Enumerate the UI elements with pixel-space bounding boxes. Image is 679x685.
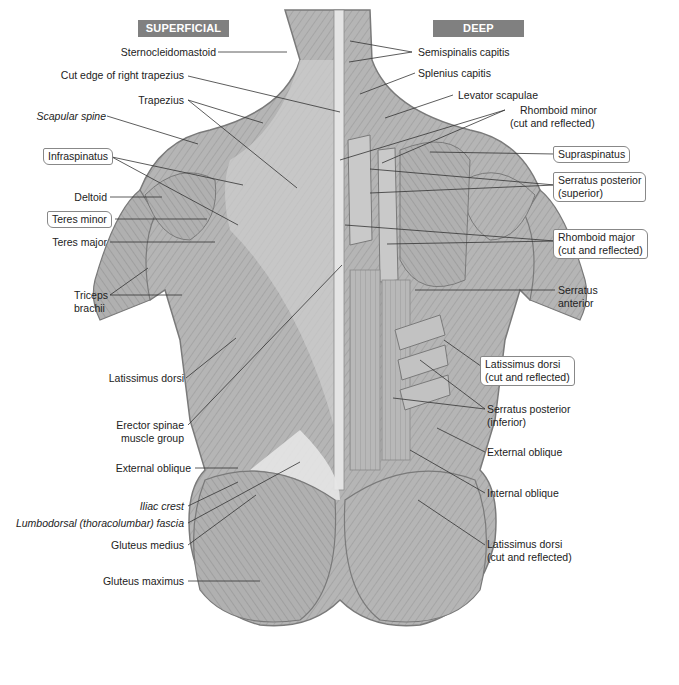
label-teres-minor: Teres minor	[47, 211, 112, 228]
label-serratus-posterior-inferior: Serratus posterior (inferior)	[487, 403, 570, 429]
label-line-2: anterior	[558, 297, 598, 310]
label-line-2: (cut and reflected)	[510, 117, 597, 130]
label-line-1: Rhomboid major	[558, 231, 643, 244]
label-sternocleidomastoid: Sternocleidomastoid	[121, 46, 216, 59]
label-levator-scapulae: Levator scapulae	[458, 89, 538, 102]
label-cut-edge-right-trapezius: Cut edge of right trapezius	[61, 69, 184, 82]
label-line-2: (cut and reflected)	[487, 551, 572, 564]
label-external-oblique-right: External oblique	[487, 446, 562, 459]
label-gluteus-maximus: Gluteus maximus	[103, 575, 184, 588]
label-line-2: (cut and reflected)	[485, 371, 570, 384]
label-rhomboid-minor: Rhomboid minor (cut and reflected)	[510, 104, 597, 130]
label-semispinalis-capitis: Semispinalis capitis	[418, 46, 510, 59]
label-deltoid: Deltoid	[74, 191, 107, 204]
label-teres-major: Teres major	[52, 236, 107, 249]
label-line-1: Latissimus dorsi	[487, 538, 572, 551]
label-line-1: Erector spinae	[116, 419, 184, 432]
label-iliac-crest: Iliac crest	[140, 500, 184, 513]
label-internal-oblique: Internal oblique	[487, 487, 559, 500]
label-splenius-capitis: Splenius capitis	[418, 67, 491, 80]
label-line-2: muscle group	[116, 432, 184, 445]
label-line-1: Serratus	[558, 284, 598, 297]
label-supraspinatus: Supraspinatus	[553, 146, 630, 163]
label-serratus-posterior-superior: Serratus posterior (superior)	[553, 172, 646, 202]
label-gluteus-medius: Gluteus medius	[111, 539, 184, 552]
back-muscle-illustration	[0, 0, 679, 685]
label-line-2: brachii	[74, 302, 108, 315]
label-rhomboid-major: Rhomboid major (cut and reflected)	[553, 229, 648, 259]
label-trapezius: Trapezius	[138, 94, 184, 107]
label-external-oblique-left: External oblique	[116, 462, 191, 475]
label-line-2: (cut and reflected)	[558, 244, 643, 257]
label-line-1: Serratus posterior	[558, 174, 641, 187]
label-infraspinatus: Infraspinatus	[43, 148, 113, 165]
superficial-header: SUPERFICIAL	[138, 20, 229, 37]
label-erector-spinae: Erector spinae muscle group	[116, 419, 184, 445]
label-line-1: Serratus posterior	[487, 403, 570, 416]
label-line-1: Rhomboid minor	[510, 104, 597, 117]
label-line-2: (inferior)	[487, 416, 570, 429]
label-latissimus-dorsi-cut-upper: Latissimus dorsi (cut and reflected)	[480, 356, 575, 386]
label-line-1: Latissimus dorsi	[485, 358, 570, 371]
label-latissimus-dorsi-cut-lower: Latissimus dorsi (cut and reflected)	[487, 538, 572, 564]
label-lumbodorsal-fascia: Lumbodorsal (thoracolumbar) fascia	[16, 517, 184, 530]
label-line-1: Triceps	[74, 289, 108, 302]
label-line-2: (superior)	[558, 187, 641, 200]
label-latissimus-dorsi: Latissimus dorsi	[109, 372, 184, 385]
label-serratus-anterior: Serratus anterior	[558, 284, 598, 310]
deep-header: DEEP	[433, 20, 524, 37]
label-scapular-spine: Scapular spine	[37, 110, 106, 123]
label-triceps-brachii: Triceps brachii	[74, 289, 108, 315]
back-muscles-diagram: SUPERFICIAL DEEP Sternocleidomastoid Cut…	[0, 0, 679, 685]
